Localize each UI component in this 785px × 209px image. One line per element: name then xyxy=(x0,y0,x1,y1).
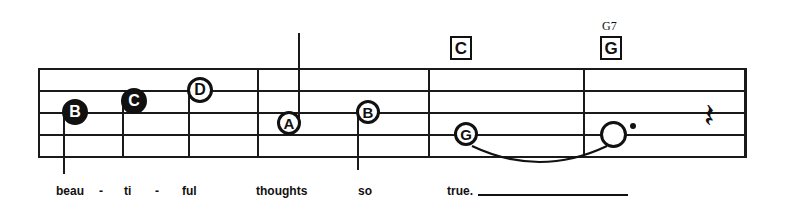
lyric-beau: beau xyxy=(56,185,84,197)
barline-start xyxy=(38,68,40,158)
note-stem-note-4 xyxy=(298,33,300,123)
notehead-note-6-g[interactable]: G xyxy=(454,122,478,146)
chord-superscript-g7: G7 xyxy=(602,20,617,32)
note-stem-note-1 xyxy=(63,112,65,174)
lyric-dash-1: - xyxy=(99,185,103,197)
staff-line-5 xyxy=(38,156,746,158)
notehead-note-4-a[interactable]: A xyxy=(277,111,301,135)
barline-measure-3-4 xyxy=(583,68,585,158)
quarter-rest-icon: 𝄽 xyxy=(704,98,714,132)
notehead-note-1-b[interactable]: B xyxy=(62,99,88,125)
lyric-so: so xyxy=(358,185,372,197)
lyric-thoughts: thoughts xyxy=(256,185,307,197)
note-stem-note-5 xyxy=(357,112,359,170)
notehead-note-3-d[interactable]: D xyxy=(187,77,213,103)
staff-line-2 xyxy=(38,90,746,92)
notehead-note-5-b[interactable]: B xyxy=(356,100,380,124)
staff-line-4 xyxy=(38,134,746,136)
barline-final xyxy=(744,68,747,158)
chord-box-c[interactable]: C xyxy=(450,36,472,60)
tie-curve xyxy=(0,0,785,209)
barline-measure-1-2 xyxy=(257,68,259,158)
notehead-note-7[interactable] xyxy=(600,121,627,148)
lyric-ful: ful xyxy=(182,185,197,197)
barline-measure-2-3 xyxy=(428,68,430,158)
lyric-dash-2: - xyxy=(155,185,159,197)
chord-box-g[interactable]: G xyxy=(600,36,622,60)
music-staff-sheet: BCDABG 𝄽 G7 C G beau-ti-fulthoughtssotru… xyxy=(0,0,785,209)
staff-line-3 xyxy=(38,112,746,114)
lyric-true: true. xyxy=(447,185,473,197)
augmentation-dot-note-7 xyxy=(630,123,636,129)
melisma-extension-line xyxy=(478,194,628,196)
note-stem-note-3 xyxy=(188,90,190,158)
lyric-ti: ti xyxy=(124,185,131,197)
notehead-note-2-c[interactable]: C xyxy=(121,88,147,114)
staff-line-1 xyxy=(38,68,746,70)
